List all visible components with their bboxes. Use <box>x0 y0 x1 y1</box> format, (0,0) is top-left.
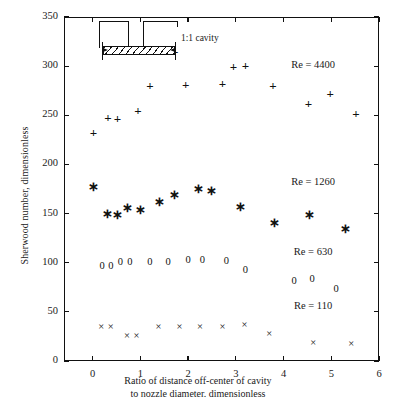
data-point-plus: + <box>327 86 334 99</box>
data-point-cross: × <box>310 338 316 349</box>
data-point-star: ∗ <box>169 187 180 200</box>
data-point-zero: 0 <box>243 264 248 275</box>
data-point-star: ∗ <box>269 216 280 229</box>
data-point-zero: 0 <box>118 256 123 267</box>
y-axis-tick <box>374 262 379 263</box>
x-axis-tick <box>235 17 236 22</box>
x-axis-tick <box>283 17 284 22</box>
data-point-star: ∗ <box>122 200 133 213</box>
x-axis-tick <box>187 17 188 22</box>
series-label-1: Re = 1260 <box>291 176 335 187</box>
y-axis-tick <box>64 311 69 312</box>
x-axis-tick <box>92 17 93 22</box>
data-point-star: ∗ <box>304 207 315 220</box>
data-point-plus: + <box>242 59 249 72</box>
y-axis-tick <box>64 115 69 116</box>
nozzle-wall-right-outer <box>177 21 178 27</box>
data-point-zero: 0 <box>127 256 132 267</box>
x-axis-tick <box>378 17 379 22</box>
data-point-zero: 0 <box>100 260 105 271</box>
data-point-zero: 0 <box>310 274 315 285</box>
y-axis-tick <box>64 164 69 165</box>
data-point-cross: × <box>108 321 114 332</box>
data-point-plus: + <box>182 77 189 90</box>
x-axis-tick-label: 3 <box>216 368 256 379</box>
y-axis-tick <box>64 66 69 67</box>
x-axis-tick <box>235 356 236 361</box>
data-point-star: ∗ <box>135 202 146 215</box>
x-axis-tick <box>140 17 141 22</box>
data-point-cross: × <box>348 339 354 350</box>
sherwood-number-scatter-figure: Sherwood number, dimensionless Ratio of … <box>0 0 396 409</box>
cavity-plate-hatched <box>103 46 175 55</box>
y-axis-tick <box>64 360 69 361</box>
series-label-0: Re = 4400 <box>291 59 335 70</box>
y-axis-tick <box>374 164 379 165</box>
x-axis-tick <box>331 356 332 361</box>
y-axis-tick-label: 300 <box>18 59 58 70</box>
x-axis-tick <box>92 356 93 361</box>
x-axis-tick-label: 1 <box>120 368 160 379</box>
data-point-zero: 0 <box>291 276 296 287</box>
cavity-ratio-annotation: 1:1 cavity <box>181 33 219 43</box>
data-point-plus: + <box>219 76 226 89</box>
x-axis-tick-label: 0 <box>73 368 113 379</box>
nozzle-wall-left-outer <box>99 21 100 48</box>
dimension-arrow-right <box>170 48 175 52</box>
data-point-cross: × <box>241 319 247 330</box>
data-point-zero: 0 <box>147 256 152 267</box>
data-point-cross: × <box>98 321 104 332</box>
data-point-zero: 0 <box>333 284 338 295</box>
data-point-zero: 0 <box>185 255 190 266</box>
y-axis-tick-label: 250 <box>18 108 58 119</box>
y-axis-tick <box>64 213 69 214</box>
data-point-plus: + <box>352 107 359 120</box>
data-point-star: ∗ <box>193 182 204 195</box>
y-axis-tick-label: 200 <box>18 157 58 168</box>
data-point-zero: 0 <box>224 255 229 266</box>
y-axis-tick <box>64 16 69 17</box>
data-point-cross: × <box>134 331 140 342</box>
y-axis-tick-label: 100 <box>18 256 58 267</box>
data-point-zero: 0 <box>165 256 170 267</box>
data-point-star: ∗ <box>206 183 217 196</box>
nozzle-top-right <box>143 21 178 22</box>
data-point-zero: 0 <box>108 260 113 271</box>
data-point-cross: × <box>156 321 162 332</box>
y-axis-tick-label: 0 <box>18 354 58 365</box>
data-point-cross: × <box>177 321 183 332</box>
dimension-arrow-left <box>103 48 108 52</box>
x-axis-tick <box>378 356 379 361</box>
data-point-star: ∗ <box>235 199 246 212</box>
data-point-star: ∗ <box>154 194 165 207</box>
data-point-cross: × <box>266 329 272 340</box>
x-axis-tick <box>140 356 141 361</box>
data-point-plus: + <box>305 96 312 109</box>
y-axis-tick-label: 350 <box>18 10 58 21</box>
y-axis-tick <box>64 262 69 263</box>
data-point-plus: + <box>230 60 237 73</box>
data-point-zero: 0 <box>200 255 205 266</box>
x-axis-tick-label: 5 <box>311 368 351 379</box>
data-point-cross: × <box>197 321 203 332</box>
cavity-dimension-bar-right <box>175 42 176 60</box>
series-label-2: Re = 630 <box>294 245 333 256</box>
y-axis-tick-label: 50 <box>18 305 58 316</box>
x-axis-tick <box>187 356 188 361</box>
data-point-plus: + <box>269 78 276 91</box>
y-axis-tick <box>374 66 379 67</box>
data-point-plus: + <box>146 78 153 91</box>
data-point-plus: + <box>90 125 97 138</box>
data-point-plus: + <box>104 111 111 124</box>
x-axis-tick-label: 2 <box>168 368 208 379</box>
x-axis-tick-label: 4 <box>264 368 304 379</box>
data-point-star: ∗ <box>340 222 351 235</box>
data-point-cross: × <box>219 321 225 332</box>
x-axis-tick-label: 6 <box>359 368 396 379</box>
y-axis-tick <box>374 115 379 116</box>
x-axis-tick <box>331 17 332 22</box>
data-point-cross: × <box>124 331 130 342</box>
y-axis-tick <box>374 311 379 312</box>
series-label-3: Re = 110 <box>294 299 332 310</box>
nozzle-wall-left-inner <box>128 21 129 48</box>
